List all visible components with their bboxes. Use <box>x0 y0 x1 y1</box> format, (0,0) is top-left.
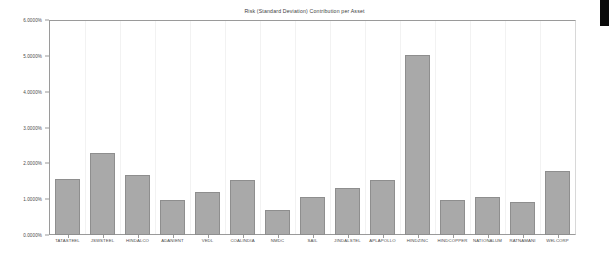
x-tick-mark <box>278 235 279 238</box>
x-tick-mark <box>313 235 314 238</box>
bar-sail[interactable] <box>300 197 326 235</box>
x-tick-label-aplapollo: APLAPOLLO <box>369 238 395 243</box>
y-tick-label: 5.0000% <box>23 53 42 58</box>
bar-hindalco[interactable] <box>125 175 151 235</box>
x-tick-mark <box>383 235 384 238</box>
bar-adanient[interactable] <box>160 200 186 235</box>
x-tick-label-hindalco: HINDALCO <box>126 238 149 243</box>
x-tick-label-nmdc: NMDC <box>271 238 284 243</box>
bar-ratnamani[interactable] <box>510 202 536 235</box>
bar-welcorp[interactable] <box>545 171 571 235</box>
x-tick-label-tatasteel: TATASTEEL <box>55 238 80 243</box>
x-tick-mark <box>68 235 69 238</box>
y-tick-label: 1.0000% <box>23 197 42 202</box>
x-tick-label-coalindia: COALINDIA <box>230 238 254 243</box>
bar-chart: Risk (Standard Deviation) Contribution p… <box>0 0 609 262</box>
bar-vedl[interactable] <box>195 192 221 235</box>
chart-title: Risk (Standard Deviation) Contribution p… <box>0 8 609 14</box>
x-tick-label-vedl: VEDL <box>202 238 214 243</box>
x-tick-label-hindzinc: HINDZINC <box>407 238 429 243</box>
y-tick-label: 0.0000% <box>23 233 42 238</box>
bar-nationalum[interactable] <box>475 197 501 235</box>
x-tick-mark <box>243 235 244 238</box>
x-tick-mark <box>558 235 559 238</box>
bar-coalindia[interactable] <box>230 180 256 235</box>
x-tick-label-jindalstel: JINDALSTEL <box>334 238 361 243</box>
x-tick-label-nationalum: NATIONALUM <box>473 238 502 243</box>
x-tick-mark <box>208 235 209 238</box>
x-tick-mark <box>103 235 104 238</box>
x-tick-mark <box>173 235 174 238</box>
x-tick-label-jswsteel: JSWSTEEL <box>91 238 115 243</box>
y-tick-label: 4.0000% <box>23 89 42 94</box>
x-tick-label-welcorp: WELCORP <box>546 238 569 243</box>
bar-hindcopper[interactable] <box>440 200 466 235</box>
corner-marker <box>600 0 609 26</box>
bars-layer <box>50 20 575 235</box>
x-tick-label-hindcopper: HINDCOPPER <box>438 238 468 243</box>
x-tick-label-sail: SAIL <box>308 238 318 243</box>
bar-tatasteel[interactable] <box>55 179 81 235</box>
y-tick-label: 2.0000% <box>23 161 42 166</box>
bar-aplapollo[interactable] <box>370 180 396 235</box>
x-tick-mark <box>453 235 454 238</box>
x-tick-label-adanient: ADANIENT <box>161 238 184 243</box>
y-tick-label: 6.0000% <box>23 18 42 23</box>
y-axis: 0.0000%1.0000%2.0000%3.0000%4.0000%5.000… <box>0 0 49 262</box>
bar-jswsteel[interactable] <box>90 153 116 235</box>
bar-jindalstel[interactable] <box>335 188 361 235</box>
x-tick-mark <box>348 235 349 238</box>
bar-hindzinc[interactable] <box>405 55 431 235</box>
y-tick-label: 3.0000% <box>23 125 42 130</box>
x-tick-mark <box>488 235 489 238</box>
x-tick-mark <box>138 235 139 238</box>
x-tick-mark <box>418 235 419 238</box>
x-tick-label-ratnamani: RATNAMANI <box>509 238 535 243</box>
bar-nmdc[interactable] <box>265 210 291 235</box>
x-tick-mark <box>523 235 524 238</box>
x-axis: TATASTEELJSWSTEELHINDALCOADANIENTVEDLCOA… <box>50 238 575 252</box>
